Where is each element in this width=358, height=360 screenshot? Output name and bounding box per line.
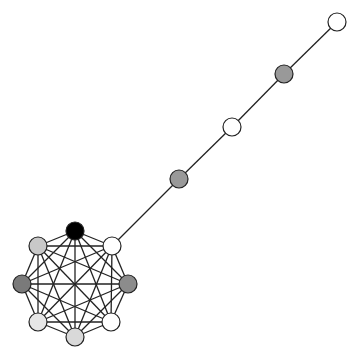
- graph-node-c6: [13, 275, 31, 293]
- graph-node-p4: [328, 13, 346, 31]
- graph-node-p3: [275, 65, 293, 83]
- graph-node-c1: [103, 237, 121, 255]
- graph-node-c5: [29, 313, 47, 331]
- graph-node-c4: [66, 328, 84, 346]
- graph-node-p2: [223, 118, 241, 136]
- graph-edge: [112, 179, 179, 246]
- graph-node-p1: [170, 170, 188, 188]
- graph-edge: [284, 22, 337, 74]
- graph-node-c2: [119, 275, 137, 293]
- graph-node-c0: [66, 222, 84, 240]
- graph-edge: [232, 74, 284, 127]
- lollipop-graph-diagram: [0, 0, 358, 360]
- graph-node-c3: [102, 313, 120, 331]
- graph-edge: [179, 127, 232, 179]
- graph-node-c7: [29, 237, 47, 255]
